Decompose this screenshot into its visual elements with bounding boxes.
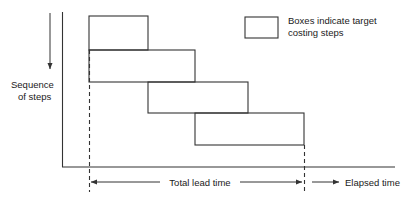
- diagram-canvas: Sequence of steps Boxes indicate target …: [0, 0, 410, 199]
- elapsed-time-label: Elapsed time: [345, 177, 400, 188]
- step-box-2: [89, 50, 195, 82]
- target-costing-staircase-diagram: Sequence of steps Boxes indicate target …: [0, 0, 410, 199]
- legend-text-line1: Boxes indicate target: [288, 15, 377, 26]
- target-costing-step-boxes: [89, 16, 304, 145]
- step-box-1: [89, 16, 148, 50]
- legend-text-line2: costing steps: [288, 27, 344, 38]
- legend-swatch-icon: [245, 17, 278, 38]
- y-axis-label-line1: Sequence: [11, 79, 54, 90]
- step-box-3: [148, 82, 248, 113]
- step-box-4: [195, 113, 304, 145]
- total-lead-time-label: Total lead time: [169, 177, 230, 188]
- y-axis-label-line2: of steps: [18, 91, 52, 102]
